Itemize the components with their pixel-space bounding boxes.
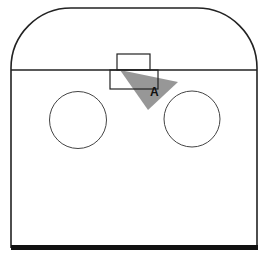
- rink-outline: [11, 8, 257, 248]
- goal-net: [117, 54, 150, 70]
- blue-line: [11, 245, 258, 250]
- point-a-label: A: [150, 85, 159, 99]
- shaded-zone: [120, 70, 178, 110]
- left-faceoff-circle: [50, 92, 107, 149]
- right-faceoff-circle: [164, 91, 220, 147]
- rink-diagram: A: [0, 0, 263, 257]
